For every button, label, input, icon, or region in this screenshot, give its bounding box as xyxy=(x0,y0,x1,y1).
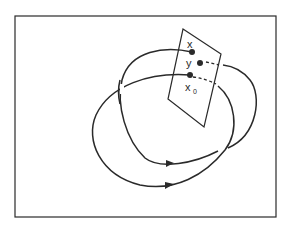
label-x0: x xyxy=(185,81,191,93)
x0-dashed-segment xyxy=(193,77,216,84)
label-x0-subscript: 0 xyxy=(193,88,197,95)
poincare-diagram: x y x 0 xyxy=(0,0,290,225)
label-x: x xyxy=(187,38,193,50)
inner-orbit xyxy=(120,50,218,165)
inner-orbit-return xyxy=(223,65,256,148)
y-dashed-segment xyxy=(206,62,219,65)
label-y: y xyxy=(186,57,192,69)
point-y xyxy=(197,60,203,66)
frame xyxy=(15,16,276,217)
point-x0 xyxy=(187,72,193,78)
arrow-inner-icon xyxy=(166,160,174,167)
section-plane xyxy=(168,29,221,127)
